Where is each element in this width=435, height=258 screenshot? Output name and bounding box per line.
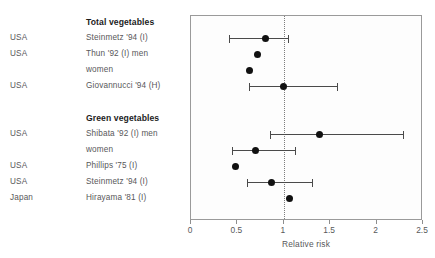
data-row: [191, 49, 421, 60]
ci-cap-lower: [232, 147, 233, 155]
data-row: [191, 129, 421, 140]
x-axis-tick: [329, 220, 330, 224]
x-axis-tick-label: 1.5: [323, 225, 335, 235]
x-axis-tick: [422, 220, 423, 224]
country-label-1-4: USA: [10, 82, 27, 90]
study-label-1-1: Steinmetz '94 (I): [86, 34, 148, 42]
study-label-2-3: Phillips '75 (I): [86, 162, 137, 170]
data-point-marker: [246, 67, 253, 74]
x-axis-tick: [283, 220, 284, 224]
data-point-marker: [280, 83, 287, 90]
data-row: [191, 65, 421, 76]
data-point-marker: [268, 179, 275, 186]
country-label-2-5: Japan: [10, 194, 33, 202]
data-row: [191, 145, 421, 156]
study-label-2-1: Shibata '92 (I) men: [86, 130, 158, 138]
x-axis-tick: [376, 220, 377, 224]
plot-area: [191, 16, 421, 219]
x-axis-tick-label: 2.5: [416, 225, 428, 235]
forest-plot-figure: Total vegetablesUSASteinmetz '94 (I)USAT…: [0, 0, 435, 258]
country-label-1-2: USA: [10, 50, 27, 58]
study-label-2-2: women: [86, 146, 113, 154]
study-label-2-5: Hirayama '81 (I): [86, 194, 146, 202]
country-label-1-1: USA: [10, 34, 27, 42]
plot-frame: [190, 15, 422, 220]
data-point-marker: [232, 163, 239, 170]
data-row: [191, 81, 421, 92]
country-label-2-1: USA: [10, 130, 27, 138]
reference-line-icon: [284, 16, 285, 219]
country-label-2-3: USA: [10, 162, 27, 170]
ci-cap-upper: [403, 131, 404, 139]
data-point-marker: [254, 51, 261, 58]
ci-cap-upper: [288, 35, 289, 43]
x-axis-tick-label: 0.5: [231, 225, 243, 235]
x-axis-tick-label: 1: [280, 225, 285, 235]
data-point-marker: [316, 131, 323, 138]
data-row: [191, 161, 421, 172]
group-heading-2: Green vegetables: [86, 114, 159, 123]
x-axis: Relative risk 00.511.522.5: [190, 220, 422, 250]
group-heading-1: Total vegetables: [86, 18, 154, 27]
data-row: [191, 193, 421, 204]
data-point-marker: [252, 147, 259, 154]
x-axis-title: Relative risk: [190, 239, 422, 249]
ci-cap-lower: [270, 131, 271, 139]
confidence-interval-bar: [229, 38, 288, 39]
country-label-2-4: USA: [10, 178, 27, 186]
data-row: [191, 177, 421, 188]
x-axis-tick: [236, 220, 237, 224]
ci-cap-lower: [229, 35, 230, 43]
ci-cap-lower: [249, 83, 250, 91]
confidence-interval-bar: [249, 86, 337, 87]
confidence-interval-bar: [270, 134, 403, 135]
study-label-1-3: women: [86, 66, 113, 74]
x-axis-tick-label: 2: [373, 225, 378, 235]
ci-cap-upper: [337, 83, 338, 91]
data-point-marker: [262, 35, 269, 42]
data-row: [191, 33, 421, 44]
ci-cap-lower: [247, 179, 248, 187]
study-label-1-2: Thun '92 (I) men: [86, 50, 148, 58]
confidence-interval-bar: [247, 182, 312, 183]
confidence-interval-bar: [232, 150, 295, 151]
study-label-1-4: Giovannucci '94 (H): [86, 82, 161, 90]
ci-cap-upper: [295, 147, 296, 155]
x-axis-tick: [190, 220, 191, 224]
study-label-2-4: Steinmetz '94 (I): [86, 178, 148, 186]
data-point-marker: [286, 195, 293, 202]
x-axis-tick-label: 0: [188, 225, 193, 235]
ci-cap-upper: [312, 179, 313, 187]
